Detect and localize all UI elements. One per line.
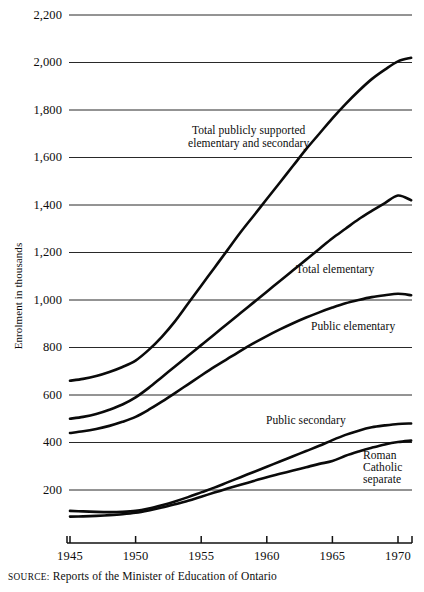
- y-axis-tick-label: 1,000: [16, 294, 62, 306]
- x-axis-tick-label: 1970: [368, 549, 424, 564]
- y-axis-tick-label: 1,400: [16, 199, 62, 211]
- series-label-public-elementary: Public elementary: [311, 320, 395, 333]
- x-axis-tick-label: 1965: [302, 549, 362, 564]
- enrolment-chart-figure: Enrolment in thousands 2004006008001,000…: [0, 0, 424, 592]
- y-axis-tick-label: 2,200: [16, 9, 62, 21]
- series-label-total-elementary: Total elementary: [296, 263, 374, 276]
- gridlines: [69, 15, 412, 490]
- series-label-roman-catholic-separate: Roman Catholic separate: [363, 449, 402, 485]
- plot-area: [0, 0, 424, 592]
- y-axis-tick-label: 2,000: [16, 56, 62, 68]
- y-axis-tick-label: 1,800: [16, 104, 62, 116]
- y-axis-tick-label: 1,600: [16, 151, 62, 163]
- x-axis-tick-label: 1955: [171, 549, 231, 564]
- y-axis-tick-label: 600: [16, 389, 62, 401]
- series-curve-3: [70, 424, 411, 513]
- series-label-public-secondary: Public secondary: [266, 414, 346, 427]
- series-curve-1: [70, 195, 411, 418]
- series-label-total-publicly-supported: Total publicly supported elementary and …: [188, 124, 309, 149]
- y-axis-tick-label: 1,200: [16, 246, 62, 258]
- y-axis-tick-labels: 2004006008001,0001,2001,4001,6001,8002,0…: [16, 0, 62, 592]
- source-label: SOURCE:: [8, 572, 50, 582]
- x-axis-tick-label: 1950: [106, 549, 166, 564]
- source-note: SOURCE: Reports of the Minister of Educa…: [8, 570, 277, 582]
- y-axis-tick-label: 800: [16, 341, 62, 353]
- series-curve-4: [70, 441, 411, 517]
- y-axis-tick-label: 400: [16, 436, 62, 448]
- y-axis-tick-label: 200: [16, 484, 62, 496]
- source-text: Reports of the Minister of Education of …: [53, 570, 277, 582]
- x-axis-tick-label: 1945: [40, 549, 100, 564]
- x-axis-line: [67, 536, 412, 543]
- x-axis-tick-label: 1960: [237, 549, 297, 564]
